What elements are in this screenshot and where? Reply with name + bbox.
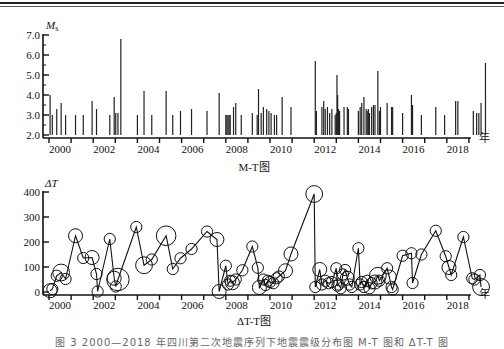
mt-y-tick-label: 2.0 (26, 129, 40, 141)
mt-y-tick-label: 7.0 (26, 29, 40, 41)
mt-y-tick-label: 6.0 (26, 49, 40, 61)
dt-x-tick-label: 2016 (403, 299, 426, 311)
dt-x-tick-label: 2002 (93, 299, 115, 311)
dt-y-tick-label: 0 (35, 286, 41, 298)
mt-x-tick-label: 2004 (137, 143, 160, 155)
mt-chart: 2.03.04.05.06.07.0Ms20002002200420062008… (26, 19, 490, 173)
dt-y-tick-label: 200 (24, 236, 41, 248)
dt-y-tick-label: 300 (24, 211, 41, 223)
dt-x-tick-label: 2006 (182, 299, 205, 311)
figure-caption: 图 3 2000—2018 年四川第二次地震序列下地震震级分布图 M-T 图和 … (0, 334, 504, 349)
mt-x-tick-label: 2016 (403, 143, 426, 155)
dt-x-tick-label: 2000 (49, 299, 72, 311)
mt-title: M-T图 (238, 161, 269, 173)
mt-y-tick-label: 5.0 (26, 69, 40, 81)
dt-x-tick-label: 2008 (226, 299, 249, 311)
dt-y-tick-label: 400 (24, 186, 41, 198)
mt-x-tick-label: 2018 (447, 143, 470, 155)
mt-x-tick-label: 2010 (270, 143, 293, 155)
dt-x-tick-label: 2014 (358, 299, 381, 311)
dt-x-tick-label: 2010 (270, 299, 293, 311)
mt-y-tick-label: 3.0 (26, 109, 40, 121)
mt-x-tick-label: 2014 (358, 143, 381, 155)
dt-x-tick-label: 2018 (447, 299, 470, 311)
dt-x-tick-label: 2004 (137, 299, 160, 311)
dt-chart: 0100200300400ΔT2000200220042006200820102… (24, 177, 490, 327)
dt-year-unit: 年 (479, 287, 490, 300)
dt-y-tick-label: 100 (24, 261, 41, 273)
mt-x-tick-label: 2000 (49, 143, 72, 155)
mt-x-tick-label: 2012 (314, 143, 336, 155)
dt-axis-label: ΔT (44, 177, 58, 189)
mt-y-tick-label: 4.0 (26, 89, 40, 101)
ms-axis-label: Ms (45, 19, 58, 33)
mt-x-tick-label: 2008 (226, 143, 249, 155)
mt-x-tick-label: 2002 (93, 143, 115, 155)
dt-title: ΔT-T图 (237, 315, 271, 327)
dt-x-tick-label: 2012 (314, 299, 336, 311)
dt-line (50, 194, 481, 292)
mt-x-tick-label: 2006 (182, 143, 205, 155)
